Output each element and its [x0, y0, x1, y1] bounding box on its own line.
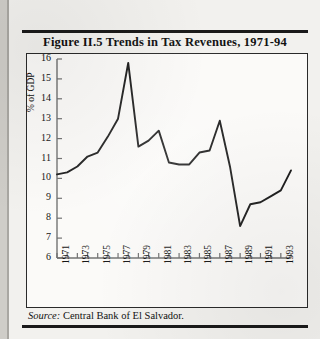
x-tick-label: 1981 — [163, 245, 173, 264]
x-tick-label: 1993 — [285, 245, 295, 264]
x-tick-label: 1987 — [224, 245, 234, 264]
page-edge-shadow — [0, 0, 9, 339]
y-tick-label: 16 — [35, 52, 51, 63]
y-tick-label: 9 — [35, 191, 51, 202]
x-tick-label: 1977 — [122, 245, 132, 264]
figure-page: Figure II.5 Trends in Tax Revenues, 1971… — [0, 0, 320, 339]
y-tick-label: 12 — [35, 132, 51, 143]
title-rule-top — [22, 30, 308, 33]
source-note: Source: Central Bank of El Salvador. — [28, 310, 184, 321]
x-tick-label: 1983 — [183, 245, 193, 264]
chart-canvas — [26, 53, 306, 306]
y-tick-label: 8 — [35, 211, 51, 222]
source-label: Source: — [28, 310, 60, 321]
figure-title: Figure II.5 Trends in Tax Revenues, 1971… — [22, 35, 308, 50]
y-tick-label: 14 — [35, 92, 51, 103]
x-tick-label: 1975 — [102, 245, 112, 264]
x-tick-label: 1985 — [203, 245, 213, 264]
x-tick-label: 1991 — [264, 245, 274, 264]
line-chart — [26, 53, 306, 306]
x-tick-label: 1973 — [81, 245, 91, 264]
source-rule-bottom — [22, 325, 308, 328]
y-tick-label: 13 — [35, 112, 51, 123]
x-tick-label: 1979 — [142, 245, 152, 264]
y-tick-label: 10 — [35, 171, 51, 182]
source-text: Central Bank of El Salvador. — [63, 310, 184, 321]
x-tick-label: 1989 — [244, 245, 254, 264]
x-tick-label: 1971 — [61, 245, 71, 264]
y-tick-label: 15 — [35, 72, 51, 83]
y-tick-label: 7 — [35, 231, 51, 242]
y-tick-label: 11 — [35, 152, 51, 163]
y-tick-label: 6 — [35, 251, 51, 262]
